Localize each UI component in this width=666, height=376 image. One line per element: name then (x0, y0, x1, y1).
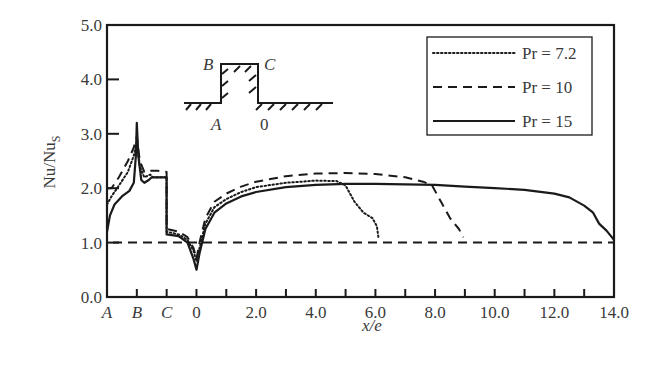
legend: Pr = 7.2Pr = 10Pr = 15 (427, 37, 592, 135)
svg-text:Nu/NuS: Nu/NuS (40, 136, 63, 189)
legend-label: Pr = 10 (522, 78, 572, 97)
x-tick-label: 14.0 (599, 303, 629, 322)
x-axis-label: x/e (361, 316, 382, 335)
y-axis-label-main: Nu/Nu (40, 142, 59, 189)
y-tick-label: 0.0 (81, 288, 102, 307)
x-tick-label: 12.0 (539, 303, 569, 322)
y-tick-label: 1.0 (81, 234, 102, 253)
y-tick-label: 4.0 (81, 70, 102, 89)
series-line (107, 142, 378, 262)
data-series (107, 123, 614, 270)
x-tick-label: 8.0 (424, 303, 445, 322)
inset-label-b: B (203, 55, 214, 74)
y-axis-label: Nu/NuS (40, 136, 63, 189)
x-tick-label: 0 (192, 303, 201, 322)
y-tick-label: 2.0 (81, 179, 102, 198)
x-tick-label: 10.0 (480, 303, 510, 322)
inset-label-c: C (264, 55, 276, 74)
inset-label-a: A (210, 115, 222, 134)
y-tick-label: 3.0 (81, 125, 102, 144)
x-tick-label: A (101, 303, 113, 322)
x-tick-label: B (132, 303, 143, 322)
legend-label: Pr = 15 (522, 112, 572, 131)
x-tick-label: 4.0 (305, 303, 326, 322)
legend-label: Pr = 7.2 (522, 44, 576, 63)
inset-label-zero: 0 (260, 115, 269, 134)
series-line (107, 137, 463, 259)
y-axis-label-subscript: S (49, 136, 63, 143)
chart: ABC02.04.06.08.010.012.014.0 0.01.02.03.… (0, 0, 666, 376)
y-axis-ticks: 0.01.02.03.04.05.0 (81, 16, 119, 307)
x-tick-label: C (161, 303, 173, 322)
y-tick-label: 5.0 (81, 16, 102, 35)
series-line (107, 123, 614, 270)
x-tick-label: 2.0 (245, 303, 266, 322)
